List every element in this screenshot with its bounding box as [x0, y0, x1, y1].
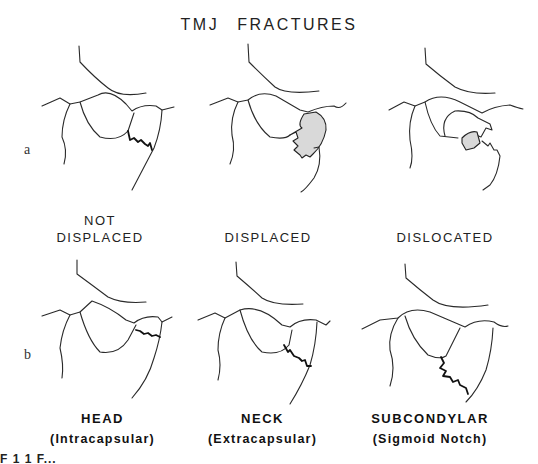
row-label-a: a: [24, 142, 30, 158]
caption-subcondylar: SUBCONDYLAR (Sigmoid Notch): [365, 408, 495, 450]
panel-a-not-displaced: [42, 46, 174, 190]
caption-main: SUBCONDYLAR: [365, 408, 495, 429]
caption-sub: (Extracapsular): [200, 429, 325, 450]
caption-neck: NECK (Extracapsular): [200, 408, 325, 450]
caption-line2: DISPLACED: [40, 229, 160, 246]
caption-main: NECK: [200, 408, 325, 429]
caption-line2: DISPLACED: [203, 229, 333, 246]
panel-b-head: [42, 260, 172, 398]
caption-sub: (Intracapsular): [40, 429, 165, 450]
caption-line2: DISLOCATED: [375, 229, 515, 246]
caption-displaced: DISPLACED: [203, 229, 333, 246]
caption-sub: (Sigmoid Notch): [365, 429, 495, 450]
cut-off-caption: F 1 1 F...: [0, 452, 57, 464]
caption-main: HEAD: [40, 408, 165, 429]
caption-line1: NOT: [40, 212, 160, 229]
panel-a-displaced: [210, 44, 346, 192]
panel-b-neck: [198, 262, 330, 404]
caption-dislocated: DISLOCATED: [375, 229, 515, 246]
panel-b-subcondylar: [362, 264, 508, 402]
panel-a-dislocated: [389, 48, 523, 190]
row-label-b: b: [24, 347, 31, 363]
caption-not-displaced: NOT DISPLACED: [40, 212, 160, 246]
caption-head: HEAD (Intracapsular): [40, 408, 165, 450]
